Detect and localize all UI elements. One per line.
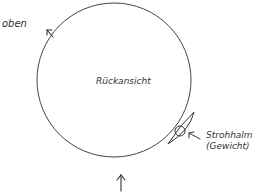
label-top: oben bbox=[2, 19, 27, 29]
diagram-canvas: oben Rückansicht Strohhalm (Gewicht) bbox=[0, 0, 267, 193]
diagram-svg bbox=[0, 0, 267, 193]
label-straw: Strohhalm (Gewicht) bbox=[206, 130, 253, 152]
label-straw-line1: Strohhalm bbox=[206, 130, 253, 141]
straw-pointer-arrow-icon bbox=[189, 132, 200, 139]
straw-weight-icon bbox=[168, 112, 194, 144]
bottom-arrow-icon bbox=[117, 175, 125, 191]
label-center: Rückansicht bbox=[96, 77, 151, 86]
label-straw-line2: (Gewicht) bbox=[206, 141, 253, 152]
